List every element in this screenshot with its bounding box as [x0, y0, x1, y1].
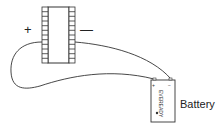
battery-terminal-plus	[153, 78, 156, 80]
negative-label: —	[80, 22, 93, 37]
wire-negative	[75, 42, 171, 79]
chip-right-pins	[69, 7, 75, 63]
battery-terminal-minus	[169, 78, 172, 80]
positive-label: +	[24, 22, 32, 37]
battery-minus-sign: −	[168, 82, 171, 88]
battery-label: Battery	[180, 98, 215, 110]
chip-left-pins	[42, 7, 48, 63]
battery-plus-sign: +	[152, 82, 155, 88]
wire-positive	[11, 42, 154, 88]
battery-dot	[156, 112, 158, 114]
battery-brand: EVEREADY	[158, 90, 164, 118]
chip-body	[48, 7, 69, 63]
